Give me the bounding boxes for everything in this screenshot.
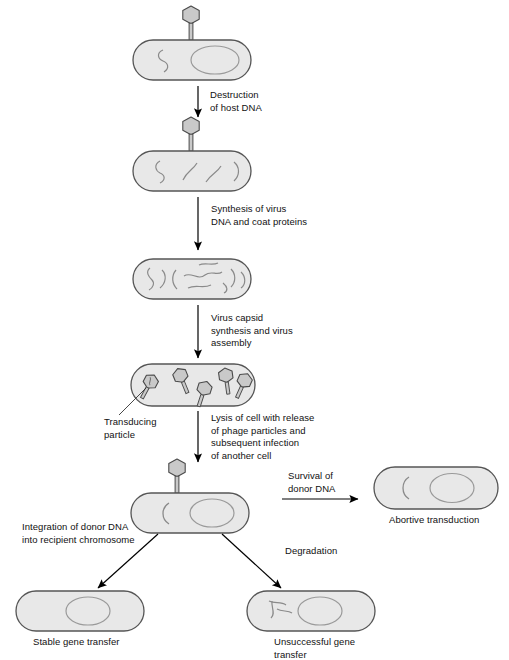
step-label-lysis: Lysis of cell with release of phage part… (211, 412, 314, 462)
step-label-degradation: Degradation (285, 545, 337, 558)
bacterial-cell-icon (133, 151, 251, 191)
transduction-diagram: Destruction of host DNA Synthesis of vir… (0, 0, 509, 660)
bacteriophage-icon (183, 117, 199, 151)
outcome-label-unsuccessful: Unsuccessful gene transfer (274, 636, 355, 660)
cell-5-recipient (131, 459, 249, 533)
step-label-destruction: Destruction of host DNA (210, 89, 262, 114)
bacterial-cell-icon (16, 591, 144, 631)
arrow-icon-degradation (222, 534, 281, 588)
step-label-synthesis: Synthesis of virus DNA and coat proteins (211, 203, 307, 228)
step-label-survival: Survival of donor DNA (288, 470, 335, 495)
cell-1-infected-host (133, 6, 251, 80)
cell-6-abortive (374, 467, 498, 509)
cell-8-unsuccessful (247, 591, 375, 631)
bacteriophage-icon (169, 459, 185, 493)
cell-3-replicated-dna (133, 259, 251, 299)
outcome-label-abortive: Abortive transduction (389, 514, 479, 527)
bacterial-cell-icon (247, 591, 375, 631)
bacterial-cell-icon (133, 40, 251, 80)
bacteriophage-icon (183, 6, 199, 40)
cell-7-stable (16, 591, 144, 631)
cell-2-degraded-host-dna (133, 117, 251, 191)
bacterial-cell-icon (374, 467, 498, 509)
callout-label-transducing-particle: Transducing particle (104, 416, 156, 441)
cell-4-assembled-phages (119, 364, 255, 415)
step-label-integration: Integration of donor DNA into recipient … (22, 521, 135, 546)
step-label-capsid: Virus capsid synthesis and virus assembl… (211, 312, 293, 350)
outcome-label-stable: Stable gene transfer (33, 636, 120, 649)
